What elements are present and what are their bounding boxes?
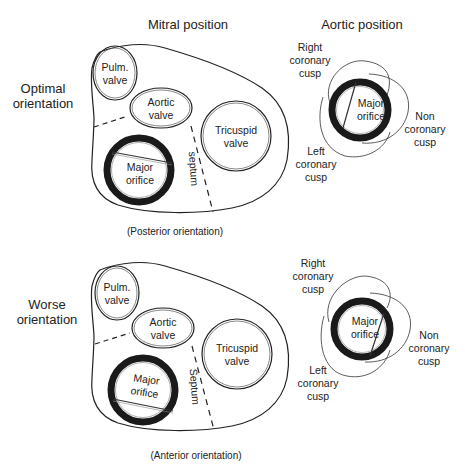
row-worse: Worse orientation Pulm. valve Aortic val… bbox=[17, 257, 451, 461]
left-coronary-cusp-label: Left bbox=[307, 145, 325, 157]
left-coronary-cusp-label: Left bbox=[309, 364, 327, 376]
svg-text:valve: valve bbox=[105, 294, 130, 306]
svg-text:coronary: coronary bbox=[293, 270, 335, 282]
svg-text:cusp: cusp bbox=[299, 67, 321, 79]
svg-text:orifice: orifice bbox=[126, 174, 154, 186]
svg-text:cusp: cusp bbox=[302, 283, 324, 295]
right-coronary-cusp-label: Right bbox=[301, 257, 326, 269]
non-coronary-cusp-label: Non bbox=[415, 110, 434, 122]
aortic-position-optimal: Major orifice bbox=[320, 61, 409, 157]
svg-text:Tricuspid: Tricuspid bbox=[216, 342, 258, 354]
svg-text:Aortic: Aortic bbox=[148, 96, 175, 108]
svg-text:valve: valve bbox=[225, 355, 250, 367]
pulmonary-valve: Pulm. valve bbox=[93, 46, 137, 100]
svg-text:Aortic: Aortic bbox=[150, 316, 177, 328]
svg-text:coronary: coronary bbox=[296, 158, 338, 170]
svg-text:coronary: coronary bbox=[290, 54, 332, 66]
pulmonary-valve: Pulm. valve bbox=[95, 266, 139, 320]
svg-text:orifice: orifice bbox=[351, 328, 379, 340]
svg-text:cusp: cusp bbox=[414, 136, 436, 148]
prosthetic-valve-major-orifice: Major orifice bbox=[107, 138, 172, 202]
header-aortic-position: Aortic position bbox=[321, 17, 403, 32]
svg-text:Major: Major bbox=[127, 161, 154, 173]
dashed-annulus-line bbox=[95, 333, 130, 344]
non-coronary-cusp-label: Non bbox=[419, 329, 438, 341]
caption-anterior: (Anterior orientation) bbox=[150, 450, 241, 461]
dashed-annulus-line bbox=[94, 116, 128, 127]
svg-text:valve: valve bbox=[151, 329, 176, 341]
svg-text:valve: valve bbox=[149, 109, 174, 121]
svg-text:coronary: coronary bbox=[298, 377, 340, 389]
row-label-worse-line1: Worse bbox=[28, 297, 65, 312]
row-label-optimal-line2: orientation bbox=[13, 96, 74, 111]
prosthetic-valve-major-orifice: Major orifice bbox=[111, 358, 175, 422]
septum-label: Septum bbox=[188, 368, 203, 405]
row-label-worse-line2: orientation bbox=[17, 312, 78, 327]
svg-text:valve: valve bbox=[224, 137, 249, 149]
aortic-position-worse: Major orifice bbox=[321, 276, 410, 377]
svg-text:cusp: cusp bbox=[418, 355, 440, 367]
caption-posterior: (Posterior orientation) bbox=[127, 226, 223, 237]
svg-text:Pulm.: Pulm. bbox=[104, 281, 131, 293]
svg-text:orifice: orifice bbox=[357, 110, 385, 122]
svg-text:cusp: cusp bbox=[305, 171, 327, 183]
svg-text:valve: valve bbox=[103, 74, 128, 86]
aortic-valve: Aortic valve bbox=[132, 308, 194, 348]
header-mitral-position: Mitral position bbox=[148, 17, 228, 32]
septum-label: septum bbox=[187, 151, 201, 186]
tricuspid-valve: Tricuspid valve bbox=[202, 319, 272, 389]
svg-text:Major: Major bbox=[352, 315, 379, 327]
svg-text:coronary: coronary bbox=[405, 123, 447, 135]
svg-text:Major: Major bbox=[358, 97, 385, 109]
row-optimal: Optimal orientation Pulm. valve Aortic v… bbox=[13, 41, 447, 237]
svg-text:Pulm.: Pulm. bbox=[102, 61, 129, 73]
aortic-valve: Aortic valve bbox=[130, 88, 192, 128]
svg-text:orifice: orifice bbox=[130, 384, 160, 400]
valve-orientation-diagram: Mitral position Aortic position Optimal … bbox=[0, 0, 465, 476]
svg-text:Tricuspid: Tricuspid bbox=[215, 124, 257, 136]
svg-text:coronary: coronary bbox=[409, 342, 451, 354]
right-coronary-cusp-label: Right bbox=[298, 41, 323, 53]
tricuspid-valve: Tricuspid valve bbox=[201, 101, 271, 171]
svg-text:cusp: cusp bbox=[307, 390, 329, 402]
row-label-optimal-line1: Optimal bbox=[21, 81, 66, 96]
